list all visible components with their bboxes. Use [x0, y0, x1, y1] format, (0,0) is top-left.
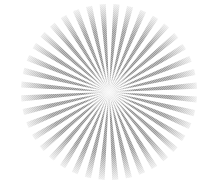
starburst-image: [0, 0, 217, 184]
fade-overlay: [20, 3, 198, 181]
